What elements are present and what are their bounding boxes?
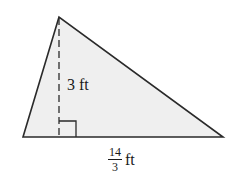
height-label: 3 ft: [67, 77, 89, 93]
fraction-denominator: 3: [112, 160, 118, 173]
height-label-text: 3 ft: [67, 76, 89, 93]
triangle-figure: 3 ft 14 3 ft: [0, 0, 236, 185]
base-label: 14 3 ft: [108, 146, 135, 173]
fraction-numerator: 14: [108, 146, 122, 160]
base-fraction: 14 3: [108, 146, 122, 173]
triangle-shape: [23, 17, 223, 137]
base-unit: ft: [125, 152, 135, 168]
